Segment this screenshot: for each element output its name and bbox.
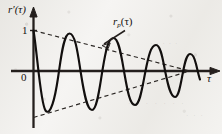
y-axis-arrowhead <box>30 7 37 17</box>
y-tick-label-one: 1 <box>22 24 28 36</box>
y-tick-label-zero: 0 <box>21 71 27 83</box>
y-axis-group <box>30 7 37 128</box>
plot-canvas <box>0 0 222 134</box>
x-axis-label: τ <box>207 72 211 84</box>
annotation-leader-line <box>104 31 125 45</box>
y-axis-label-text: r′(τ) <box>8 3 26 15</box>
upper-envelope-line <box>34 31 191 72</box>
annotation-leader-group <box>102 31 125 49</box>
y-axis-label: r′(τ) <box>8 3 26 15</box>
figure-container: · · · · · · · · · · · · · · · r′(τ) <box>0 0 222 134</box>
envelope-label-arg: (τ) <box>121 15 133 27</box>
x-axis-group <box>11 67 220 74</box>
annotation-leader-arrowhead <box>102 43 110 49</box>
x-axis-arrowhead <box>210 67 220 74</box>
envelope-annotation-label: rp(τ) <box>113 15 133 29</box>
